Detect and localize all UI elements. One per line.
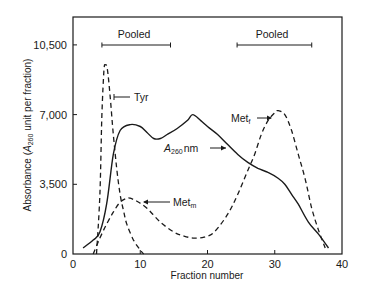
pooled-range-right: Pooled (237, 28, 312, 48)
metm-label-sub: m (191, 202, 197, 209)
x-tick-label: 30 (269, 258, 281, 270)
metf-label-sub: f (249, 118, 251, 125)
x-tick-label: 10 (134, 258, 146, 270)
y-axis-title-suffix: unit per fraction) (22, 59, 33, 134)
x-axis-title: Fraction number (171, 270, 244, 281)
plot-frame (73, 17, 342, 254)
y-axis-ticks: 03,5007,00010,500 (33, 39, 77, 260)
a260-label-unit: nm (184, 142, 199, 154)
y-tick-label: 0 (61, 248, 67, 260)
y-tick-label: 10,500 (33, 39, 67, 51)
absorbance-chart: 010203040 03,5007,00010,500 Fraction num… (0, 0, 366, 297)
series-group (83, 65, 328, 254)
a260-label-sub: 260 (171, 148, 183, 155)
a260-arrow-head-icon (221, 146, 226, 151)
x-tick-label: 0 (70, 258, 76, 270)
metf-label: Metf (231, 112, 251, 125)
pooled-range-left: Pooled (102, 28, 171, 48)
y-axis-title-sub: 260 (27, 134, 34, 146)
pooled-label-left: Pooled (118, 28, 151, 40)
series-a260-nm (83, 115, 328, 248)
y-axis-title-prefix: Absorbance ( (22, 151, 33, 211)
annotation-metm: Metm (143, 196, 197, 209)
chart-container: 010203040 03,5007,00010,500 Fraction num… (0, 0, 366, 297)
x-tick-label: 40 (336, 258, 348, 270)
metm-label: Metm (173, 196, 197, 209)
pooled-label-right: Pooled (256, 28, 289, 40)
tyr-label: Tyr (134, 91, 149, 103)
a260-label-A: A (163, 142, 171, 154)
a260-label: A260nm (163, 142, 199, 155)
annotation-tyr: Tyr (114, 91, 149, 103)
series-met-m (93, 111, 325, 254)
x-axis-ticks: 010203040 (70, 250, 348, 270)
x-tick-label: 20 (201, 258, 213, 270)
annotation-a260: A260nm (163, 142, 226, 155)
metf-label-main: Met (231, 112, 249, 124)
y-tick-label: 7,000 (39, 109, 67, 121)
y-axis-title: Absorbance (A260 unit per fraction) (22, 59, 34, 212)
y-tick-label: 3,500 (39, 178, 67, 190)
metm-label-main: Met (173, 196, 191, 208)
metm-arrow-head-icon (143, 200, 148, 205)
